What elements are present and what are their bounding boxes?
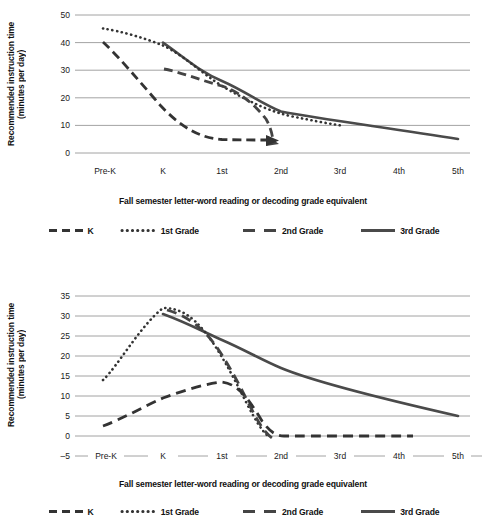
chart-panel-top: Recommended instruction time (minutes pe… (0, 0, 486, 266)
gridlines-bottom (75, 296, 470, 436)
legend-swatch-solid-icon (359, 506, 397, 517)
legend-label: K (88, 226, 94, 236)
x-tick: 1st (216, 451, 228, 461)
legend-item-3rd-grade[interactable]: 3rd Grade (359, 225, 439, 236)
series-line-1st-grade (103, 29, 341, 126)
x-tick: Pre-K (94, 166, 116, 176)
legend-label: 2nd Grade (282, 226, 323, 236)
legend-swatch-solid-icon (359, 225, 397, 236)
legend-bottom: K 1st Grade 2nd Grade 3rd Grade (0, 506, 486, 517)
y-tick: 20 (61, 351, 71, 361)
y-axis-ticks-top: 50 40 30 20 10 0 (61, 10, 71, 158)
legend-top: K 1st Grade 2nd Grade 3rd Grade (0, 225, 486, 236)
x-tick: 3rd (334, 451, 347, 461)
legend-swatch-dotted-icon (120, 225, 158, 236)
y-tick: 10 (61, 391, 71, 401)
series-line-k (103, 382, 413, 436)
legend-swatch-longdash-icon (241, 506, 279, 517)
y-tick: 50 (61, 10, 71, 20)
x-tick: K (160, 451, 166, 461)
legend-item-3rd-grade[interactable]: 3rd Grade (359, 506, 439, 517)
legend-label: 3rd Grade (400, 507, 439, 517)
x-axis-title-top: Fall semester letter-word reading or dec… (0, 196, 486, 206)
series-line-3rd-grade (163, 314, 458, 416)
legend-label: 1st Grade (161, 226, 199, 236)
legend-label: 2nd Grade (282, 507, 323, 517)
series-line-3rd-grade (163, 43, 458, 139)
plot-area-bottom: 35 30 25 20 15 10 5 0 –5 Pre-K K 1st 2nd… (0, 266, 486, 471)
plot-area-top: 50 40 30 20 10 0 Pre-K K 1st 2nd 3rd 4th… (0, 0, 486, 200)
x-tick: 5th (452, 166, 464, 176)
y-tick: 0 (65, 148, 70, 158)
legend-label: 3rd Grade (400, 226, 439, 236)
y-tick: 0 (65, 431, 70, 441)
x-axis-ticks-bottom: Pre-K K 1st 2nd 3rd 4th 5th (95, 451, 464, 461)
y-tick: 5 (65, 411, 70, 421)
series-line-2nd-grade (167, 310, 272, 438)
x-tick: 5th (452, 451, 464, 461)
x-tick: Pre-K (95, 451, 117, 461)
legend-item-2nd-grade[interactable]: 2nd Grade (241, 506, 323, 517)
legend-item-1st-grade[interactable]: 1st Grade (120, 225, 199, 236)
legend-label: K (88, 507, 94, 517)
legend-item-k[interactable]: K (47, 225, 94, 236)
y-tick: 25 (61, 331, 71, 341)
y-tick: –5 (61, 451, 71, 461)
y-axis-ticks-bottom: 35 30 25 20 15 10 5 0 –5 (61, 291, 71, 461)
x-tick: 3rd (334, 166, 347, 176)
y-tick: 20 (61, 93, 71, 103)
x-axis-ticks-top: Pre-K K 1st 2nd 3rd 4th 5th (94, 166, 464, 176)
x-tick: 2nd (274, 166, 288, 176)
y-tick: 40 (61, 38, 71, 48)
legend-item-1st-grade[interactable]: 1st Grade (120, 506, 199, 517)
y-tick: 30 (61, 65, 71, 75)
x-tick: 4th (393, 451, 405, 461)
legend-item-2nd-grade[interactable]: 2nd Grade (241, 225, 323, 236)
x-tick: 1st (216, 166, 228, 176)
x-tick: 2nd (274, 451, 288, 461)
y-tick: 10 (61, 120, 71, 130)
legend-swatch-dashed-icon (47, 506, 85, 517)
y-tick: 35 (61, 291, 71, 301)
y-tick: 30 (61, 311, 71, 321)
series-line-1st-grade (103, 308, 268, 436)
legend-swatch-dashed-icon (47, 225, 85, 236)
y-tick: 15 (61, 371, 71, 381)
legend-swatch-longdash-icon (241, 225, 279, 236)
x-tick: 4th (393, 166, 405, 176)
legend-item-k[interactable]: K (47, 506, 94, 517)
chart-panel-bottom: Recommended instruction time (minutes pe… (0, 266, 486, 531)
x-tick: K (160, 166, 166, 176)
x-axis-title-bottom: Fall semester letter-word reading or dec… (0, 479, 486, 489)
legend-label: 1st Grade (161, 507, 199, 517)
legend-swatch-dotted-icon (120, 506, 158, 517)
